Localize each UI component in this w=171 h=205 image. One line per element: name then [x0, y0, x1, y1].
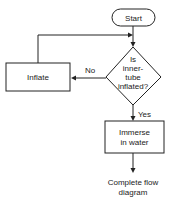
decision-label-line-3: tube	[125, 73, 141, 82]
immerse-label-line-1: Immerse	[119, 128, 151, 137]
yes-branch-label: Yes	[138, 110, 151, 119]
end-label-line-2: diagram	[119, 188, 148, 197]
end-node: Complete flow diagram	[108, 178, 159, 197]
start-label: Start	[125, 14, 143, 23]
no-branch-label: No	[85, 66, 96, 75]
decision-label-line-1: Is	[130, 55, 136, 64]
start-node: Start	[112, 9, 155, 26]
arrow-inflate-loop	[128, 33, 133, 38]
end-label-line-1: Complete flow	[108, 178, 159, 187]
inflate-node: Inflate	[6, 63, 70, 91]
immerse-label-line-2: in water	[120, 138, 148, 147]
decision-label-line-2: inner-	[123, 64, 144, 73]
decision-label-line-4: inflated?	[118, 82, 149, 91]
edge-inflate-to-decision	[38, 35, 130, 63]
inflate-label: Inflate	[27, 73, 49, 82]
decision-node: Is inner- tube inflated?	[106, 47, 161, 105]
immerse-process-shape	[105, 121, 164, 153]
flowchart: Start Is inner- tube inflated? No Inflat…	[0, 0, 171, 205]
immerse-node: Immerse in water	[105, 121, 164, 153]
arrow-immerse-to-end	[131, 168, 136, 173]
arrow-yes-branch	[131, 116, 136, 121]
arrow-start-to-decision	[131, 42, 136, 47]
arrow-no-branch	[71, 76, 76, 81]
